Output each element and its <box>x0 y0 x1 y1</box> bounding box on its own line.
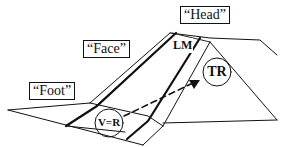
marker-lm: LM <box>172 38 193 53</box>
landform-diagram <box>0 0 285 147</box>
label-head: “Head” <box>180 6 230 24</box>
label-foot: “Foot” <box>29 82 75 100</box>
pyramid-base <box>143 120 277 145</box>
marker-tr: TR <box>205 64 229 80</box>
flow-arrow-line <box>124 83 193 116</box>
pyramid-right-edge <box>210 42 277 120</box>
face-thick-line-2 <box>127 38 200 139</box>
marker-vr: V=R <box>96 116 122 128</box>
label-face: “Face” <box>83 40 130 58</box>
